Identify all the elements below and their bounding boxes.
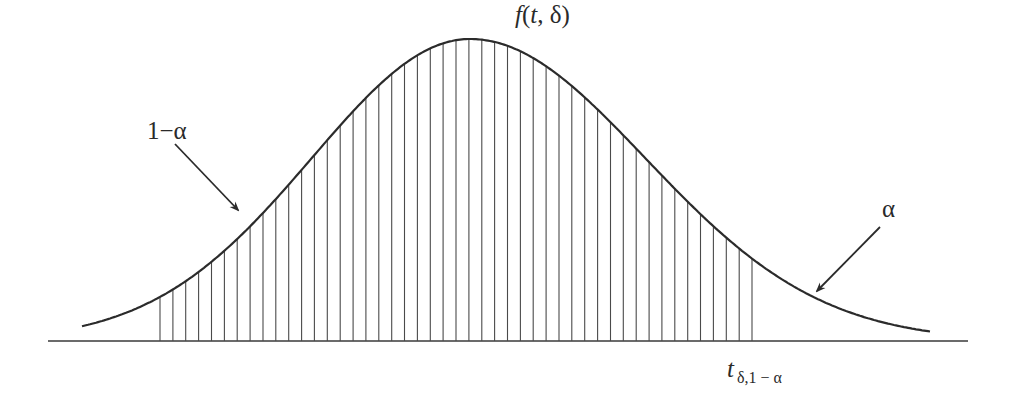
- acceptance-region-label: 1−α: [147, 118, 187, 143]
- curve-label-close: ): [562, 1, 570, 28]
- curve-label-func: f: [515, 1, 522, 28]
- curve-label-param: δ: [550, 1, 562, 28]
- critical-value-subscript: δ,1 − α: [737, 369, 782, 386]
- rejection-region-label: α: [882, 196, 895, 221]
- diagram-canvas: [0, 0, 1021, 397]
- critical-value-symbol: t: [727, 355, 734, 382]
- shaded-region-hatching: [160, 39, 752, 341]
- critical-value-label: tδ,1 − α: [727, 356, 782, 381]
- rejection-arrow: [817, 227, 880, 291]
- curve-label-sep: ,: [537, 1, 550, 28]
- density-curve: [82, 39, 930, 332]
- noncentral-t-diagram: f(t, δ) 1−α α tδ,1 − α: [0, 0, 1021, 397]
- curve-label: f(t, δ): [515, 2, 570, 27]
- acceptance-arrow: [175, 144, 238, 210]
